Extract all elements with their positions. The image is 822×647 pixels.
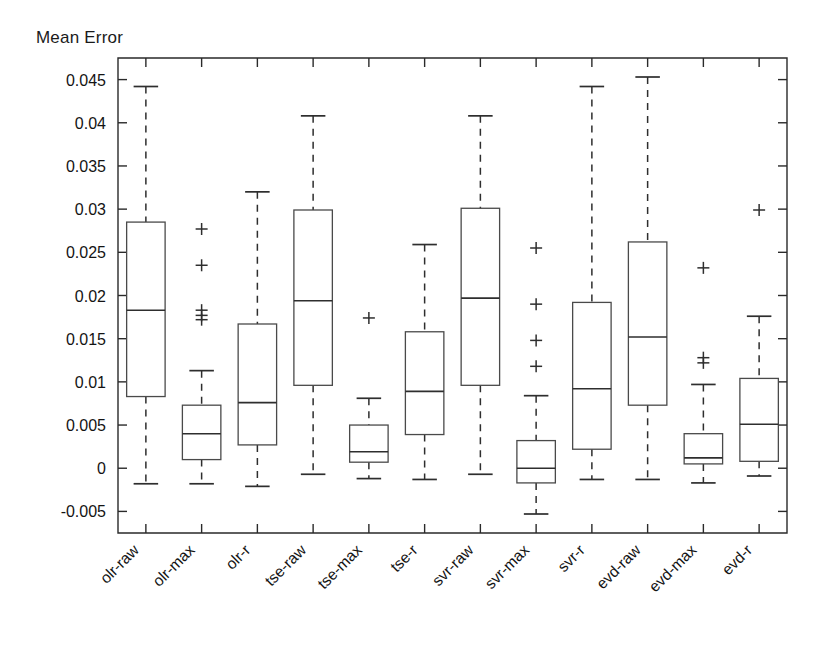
x-axis-category-label: tse-raw [261, 541, 310, 590]
y-tick-label: 0.02 [75, 288, 106, 305]
box-iqr [294, 210, 332, 385]
boxplot-box [294, 116, 332, 474]
y-tick-label: 0 [97, 460, 106, 477]
box-iqr [461, 208, 499, 385]
x-axis-category-label: olr-raw [96, 541, 142, 587]
y-tick-label: -0.005 [61, 503, 106, 520]
y-tick-group: 0.0450.040.0350.030.0250.020.0150.010.00… [61, 72, 787, 521]
y-tick-label: 0.025 [66, 244, 106, 261]
outlier-marker [697, 262, 709, 274]
y-tick-label: 0.015 [66, 331, 106, 348]
category-label-group: olr-rawolr-maxolr-rtse-rawtse-maxtse-rsv… [96, 541, 755, 596]
box-iqr [238, 324, 276, 445]
box-iqr [740, 378, 778, 461]
outlier-marker [363, 312, 375, 324]
x-axis-category-label: tse-r [387, 541, 421, 575]
boxplot-box [573, 87, 611, 480]
outlier-marker [530, 242, 542, 254]
x-axis-category-label: svr-r [554, 541, 588, 575]
box-iqr [350, 425, 388, 462]
chart-container: Mean Error 0.0450.040.0350.030.0250.020.… [0, 0, 822, 647]
boxplot-box [461, 116, 499, 474]
x-axis-category-label: olr-max [149, 541, 198, 590]
box-iqr [127, 222, 165, 396]
axis-group [118, 58, 787, 533]
outlier-marker [697, 357, 709, 369]
box-iqr [628, 242, 666, 405]
box-iqr [573, 302, 611, 449]
y-tick-label: 0.03 [75, 201, 106, 218]
outlier-marker [530, 360, 542, 372]
x-axis-category-label: svr-max [481, 541, 532, 592]
boxplot-box [127, 87, 165, 484]
x-axis-category-label: evd-r [718, 541, 755, 578]
y-tick-label: 0.045 [66, 72, 106, 89]
boxplot-box [405, 245, 443, 480]
boxplot-box [628, 77, 666, 479]
outlier-marker [753, 204, 765, 216]
boxplot-box [350, 312, 388, 479]
plot-frame [118, 58, 787, 533]
box-iqr [684, 434, 722, 464]
x-axis-category-label: tse-max [314, 541, 365, 592]
outlier-marker [196, 259, 208, 271]
x-axis-category-label: olr-r [222, 541, 254, 573]
boxplot-box [517, 242, 555, 514]
boxplot-box [684, 262, 722, 483]
boxplot-box [182, 223, 220, 484]
outlier-marker [196, 223, 208, 235]
y-tick-label: 0.035 [66, 158, 106, 175]
boxplot-box [740, 204, 778, 476]
y-tick-label: 0.01 [75, 374, 106, 391]
x-axis-category-label: evd-raw [593, 541, 645, 593]
boxplot-series [127, 77, 779, 514]
y-tick-label: 0.005 [66, 417, 106, 434]
x-axis-category-label: evd-max [645, 541, 699, 595]
x-axis-category-label: svr-raw [429, 541, 478, 590]
outlier-marker [530, 334, 542, 346]
y-tick-label: 0.04 [75, 115, 106, 132]
boxplot-svg: 0.0450.040.0350.030.0250.020.0150.010.00… [0, 0, 822, 647]
boxplot-box [238, 192, 276, 487]
outlier-marker [530, 298, 542, 310]
box-iqr [182, 405, 220, 459]
box-iqr [517, 441, 555, 483]
box-iqr [405, 332, 443, 435]
